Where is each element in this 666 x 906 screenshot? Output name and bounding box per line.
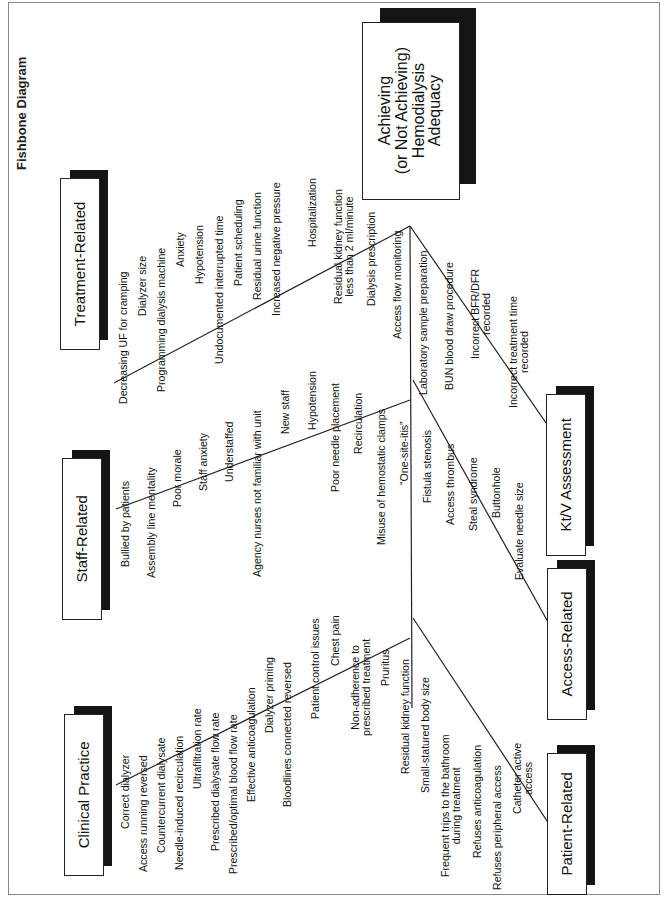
cause-item: Dialyzer size <box>137 256 148 316</box>
cause-item: Access running reversed <box>138 756 149 873</box>
cause-item: Evaluate needle size <box>514 482 525 580</box>
cause-item: Assembly line mentality <box>146 468 157 579</box>
cause-item: Agency nurses not familiar with unit <box>252 410 263 577</box>
cause-item: Dialysis prescription <box>366 211 377 305</box>
category-label-staff: Staff-Related <box>74 495 90 582</box>
cause-item: Prescribed dialysate flow rate <box>210 713 221 851</box>
cause-item: Effective anticoagulation <box>246 687 257 802</box>
cause-item: Poor morale <box>172 449 183 507</box>
cause-item: Access thrombus <box>445 444 456 525</box>
cause-item: Bloodlines connected reversed <box>282 662 293 807</box>
cause-item: Fistula stenosis <box>422 430 433 503</box>
cause-item: Refuses anticoagulation <box>472 745 483 858</box>
cause-item: Hospitalization <box>307 178 318 247</box>
category-label-access: Access-Related <box>559 591 575 696</box>
cause-item: Decreasing UF for cramping <box>118 272 129 404</box>
cause-item: Incorrect BFR/DFR recorded <box>470 269 492 359</box>
cause-item: Buttonhole <box>491 467 502 518</box>
cause-item: Needle-induced recirculation <box>174 736 185 870</box>
cause-item: Residual kidney function <box>400 659 411 774</box>
cause-item: Pruritus <box>380 650 391 687</box>
category-box-treatment: Treatment-Related <box>60 170 108 350</box>
cause-item: Refuses peripheral access <box>492 765 503 890</box>
cause-item: BUN blood draw procedure <box>444 262 455 390</box>
cause-item: Misuse of hemostatic clamps <box>376 409 387 545</box>
category-label-ktv: Kt/V Assessment <box>558 418 574 531</box>
cause-item: Incorrect treatment time recorded <box>508 296 530 408</box>
effect-box: Achieving (or Not Achieving) Hemodialysi… <box>362 8 476 200</box>
spine <box>410 226 412 708</box>
cause-item: Bullied by patients <box>120 481 131 567</box>
category-box-clinical: Clinical Practice <box>64 706 112 876</box>
cause-item: Prescribed/optimal blood flow rate <box>228 714 239 874</box>
cause-item: Steal syndrome <box>468 457 479 531</box>
category-label-patient: Patient-Related <box>559 772 575 875</box>
cause-item: Dialyzer priming <box>264 657 275 733</box>
cause-item: Ultrafiltration rate <box>192 708 203 789</box>
cause-item: New staff <box>280 390 291 434</box>
cause-item: Chest pain <box>330 616 341 667</box>
cause-item: Understaffed <box>224 422 235 482</box>
cause-item: Hypotension <box>307 371 318 430</box>
cause-item: Countercurrent dialysate <box>156 737 167 852</box>
effect-label: Achieving (or Not Achieving) Hemodialysi… <box>377 47 444 174</box>
cause-item: Catheter active access <box>512 743 534 814</box>
cause-item: Non-adherence to prescribed treatment <box>350 639 372 736</box>
cause-item: Access flow monitoring <box>392 230 403 338</box>
category-label-treatment: Treatment-Related <box>72 202 88 327</box>
category-box-ktv: Kt/V Assessment <box>546 386 594 556</box>
cause-item: Residual kidney function less than 2 ml/… <box>333 189 355 304</box>
bone-staff <box>116 400 410 509</box>
cause-item: Programming dialysis machine <box>156 247 167 391</box>
cause-item: Anxiety <box>175 232 186 267</box>
category-box-staff: Staff-Related <box>62 450 110 620</box>
bone-access <box>413 380 553 631</box>
cause-item: Hypotension <box>194 225 205 284</box>
cause-item: Correct dialyzer <box>120 755 131 829</box>
cause-item: Laboratory sample preparation <box>418 251 429 395</box>
cause-item: Poor needle placement <box>330 383 341 492</box>
cause-item: Small-statured body size <box>420 677 431 793</box>
cause-item: Recirculation <box>353 393 364 454</box>
category-box-access: Access-Related <box>547 560 595 720</box>
category-box-patient: Patient-Related <box>547 745 595 895</box>
cause-item: “One-site-itis” <box>399 421 410 485</box>
cause-item: Staff anxiety <box>198 432 209 490</box>
cause-item: Frequent trips to the bathroom during tr… <box>440 734 462 877</box>
cause-item: Increased negative pressure <box>271 182 282 316</box>
category-label-clinical: Clinical Practice <box>76 742 92 849</box>
cause-item: Residual urine function <box>252 192 263 300</box>
cause-item: Undocumented interrupted time <box>214 216 225 364</box>
cause-item: Patient control issues <box>310 619 321 720</box>
cause-item: Patient scheduling <box>233 199 244 286</box>
